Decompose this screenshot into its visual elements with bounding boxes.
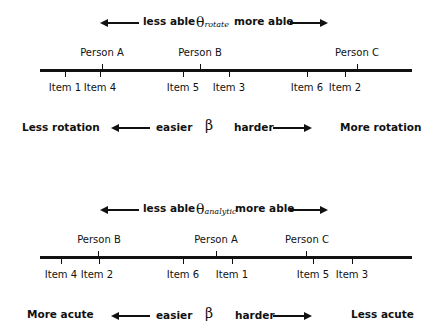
arrow-left-icon <box>107 209 139 211</box>
item-4-label: Item 4 <box>84 82 116 93</box>
item-5-tick <box>183 71 184 77</box>
person-c-label: Person C <box>285 234 329 245</box>
person-b-tick <box>200 64 201 70</box>
arrow-left-icon <box>118 127 150 129</box>
easier-label: easier <box>156 309 192 321</box>
item-5-tick <box>313 258 314 264</box>
person-a-label: Person A <box>80 47 124 58</box>
less-able-label: less able <box>143 15 195 27</box>
item-5-label: Item 5 <box>297 269 329 280</box>
arrow-left-icon <box>118 315 150 317</box>
arrow-left-icon <box>107 22 139 24</box>
less-rotation-label: Less rotation <box>22 121 100 133</box>
item-3-label: Item 3 <box>213 82 245 93</box>
more-able-label: more able <box>234 15 293 27</box>
item-2-tick <box>99 258 100 264</box>
person-b-label: Person B <box>178 47 222 58</box>
arrow-right-icon <box>290 22 321 24</box>
more-able-label: more able <box>235 202 294 214</box>
item-1-label: Item 1 <box>216 269 248 280</box>
person-b-label: Person B <box>77 234 121 245</box>
beta-label: β <box>205 117 213 133</box>
item-3-tick <box>352 258 353 264</box>
person-a-tick <box>102 64 103 70</box>
item-6-label: Item 6 <box>167 269 199 280</box>
item-2-label: Item 2 <box>81 269 113 280</box>
analytic-scale-line <box>40 256 412 259</box>
arrow-right-icon <box>273 127 305 129</box>
beta-label: β <box>205 305 213 321</box>
arrow-right-icon <box>273 315 305 317</box>
item-2-tick <box>345 71 346 77</box>
item-6-tick <box>307 71 308 77</box>
person-c-tick <box>357 64 358 70</box>
person-a-label: Person A <box>194 234 238 245</box>
item-6-tick <box>183 258 184 264</box>
item-3-label: Item 3 <box>336 269 368 280</box>
harder-label: harder <box>234 121 274 133</box>
item-2-label: Item 2 <box>329 82 361 93</box>
item-3-tick <box>229 71 230 77</box>
person-a-tick <box>216 251 217 257</box>
more-rotation-label: More rotation <box>340 121 421 133</box>
item-4-tick <box>61 258 62 264</box>
person-c-tick <box>306 251 307 257</box>
item-5-label: Item 5 <box>167 82 199 93</box>
theta-analytic-label: θanalytic <box>196 199 236 218</box>
harder-label: harder <box>235 309 275 321</box>
less-able-label: less able <box>143 202 195 214</box>
item-4-tick <box>100 71 101 77</box>
easier-label: easier <box>156 121 192 133</box>
item-6-label: Item 6 <box>291 82 323 93</box>
item-4-label: Item 4 <box>45 269 77 280</box>
person-c-label: Person C <box>335 47 379 58</box>
person-b-tick <box>98 251 99 257</box>
item-1-tick <box>65 71 66 77</box>
item-1-tick <box>232 258 233 264</box>
item-1-label: Item 1 <box>49 82 81 93</box>
more-acute-label: More acute <box>27 308 94 320</box>
less-acute-label: Less acute <box>351 308 414 320</box>
theta-rotate-label: θrotate <box>196 12 229 31</box>
arrow-right-icon <box>290 209 321 211</box>
